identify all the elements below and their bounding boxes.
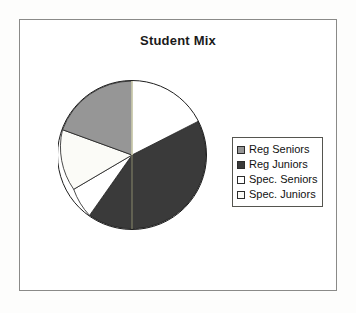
pie-plot-area bbox=[58, 75, 208, 237]
legend-item-reg-seniors[interactable]: Reg Seniors bbox=[237, 142, 317, 157]
legend-item-reg-juniors[interactable]: Reg Juniors bbox=[237, 157, 317, 172]
chart-screenshot: Student Mix Reg Senior bbox=[0, 0, 356, 313]
chart-frame: Student Mix Reg Senior bbox=[19, 19, 337, 291]
legend-swatch-icon bbox=[237, 191, 245, 199]
pie-chart-svg bbox=[58, 75, 208, 237]
legend-label: Spec. Seniors bbox=[249, 174, 317, 185]
chart-title: Student Mix bbox=[20, 33, 336, 48]
legend-label: Reg Juniors bbox=[249, 159, 308, 170]
legend-item-spec-juniors[interactable]: Spec. Juniors bbox=[237, 187, 317, 202]
legend-swatch-icon bbox=[237, 146, 245, 154]
legend-item-spec-seniors[interactable]: Spec. Seniors bbox=[237, 172, 317, 187]
legend-swatch-icon bbox=[237, 176, 245, 184]
legend-label: Spec. Juniors bbox=[249, 189, 316, 200]
legend-label: Reg Seniors bbox=[249, 144, 310, 155]
legend-swatch-icon bbox=[237, 161, 245, 169]
chart-legend: Reg Seniors Reg Juniors Spec. Seniors Sp… bbox=[232, 137, 323, 207]
